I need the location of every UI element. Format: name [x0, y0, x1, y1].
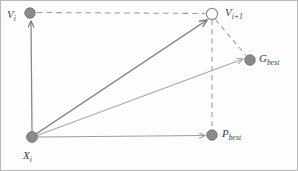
node-label-vi1-base: V	[225, 6, 232, 18]
node-vi[interactable]	[25, 8, 35, 18]
node-label-gbest-sub: best	[267, 58, 279, 67]
node-label-xi-sub: i	[30, 155, 32, 164]
node-label-vi: Vi	[7, 9, 16, 20]
node-label-pbest: Pbest	[222, 128, 241, 139]
edge-xi-to-pbest	[38, 136, 205, 138]
node-label-vi1-sub: i+1	[232, 12, 243, 21]
node-pbest[interactable]	[207, 130, 217, 140]
node-label-xi-base: X	[23, 149, 30, 161]
node-gbest[interactable]	[245, 55, 255, 65]
edge-xi-to-vi1	[36, 20, 207, 134]
edge-vi-to-vi1	[37, 13, 205, 14]
node-label-pbest-base: P	[222, 127, 229, 139]
node-xi[interactable]	[27, 132, 38, 143]
node-label-vi-base: V	[7, 8, 14, 20]
node-label-vi-sub: i	[14, 14, 16, 23]
edge-vi1-to-gbest	[216, 20, 247, 56]
node-label-xi: Xi	[23, 150, 32, 161]
diagram-canvas: Vi Vi+1 Gbest Pbest Xi	[0, 0, 298, 171]
node-label-vi1: Vi+1	[225, 7, 243, 18]
diagram-svg	[1, 1, 298, 171]
node-vi1[interactable]	[206, 8, 217, 19]
edge-xi-to-vi	[31, 21, 32, 131]
node-label-pbest-sub: best	[229, 133, 241, 142]
node-label-gbest: Gbest	[259, 53, 279, 64]
node-label-gbest-base: G	[259, 52, 267, 64]
